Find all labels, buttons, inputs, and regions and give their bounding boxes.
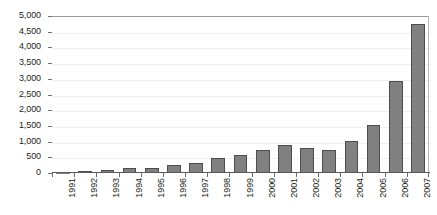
x-axis-tick-mark — [163, 173, 164, 177]
x-axis-tick-mark — [296, 173, 297, 177]
x-axis-tick-mark — [229, 173, 230, 177]
bar-series — [52, 17, 428, 173]
x-axis-tick-label: 2005 — [378, 178, 388, 212]
x-axis-tick-mark — [362, 173, 363, 177]
y-axis-tick-label: 500 — [0, 152, 41, 161]
bar[interactable] — [322, 150, 336, 173]
x-axis-tick-label: 1996 — [178, 178, 188, 212]
x-axis-tick-mark — [407, 173, 408, 177]
bar[interactable] — [300, 148, 314, 173]
x-axis-tick-label: 1992 — [89, 178, 99, 212]
x-axis-tick-label: 1997 — [200, 178, 210, 212]
x-axis-tick-mark — [185, 173, 186, 177]
y-axis-tick-label: 3,500 — [0, 58, 41, 67]
y-axis-tick-label: 1,500 — [0, 121, 41, 130]
y-axis-tick-label: 5,000 — [0, 11, 41, 20]
x-axis-tick-mark — [119, 173, 120, 177]
x-axis-tick-label: 2007 — [422, 178, 432, 212]
bar[interactable] — [389, 81, 403, 173]
x-axis-tick-label: 1998 — [222, 178, 232, 212]
bar-chart: 05001,0001,5002,0002,5003,0003,5004,0004… — [0, 0, 437, 215]
x-axis-tick-mark — [340, 173, 341, 177]
x-axis-tick-label: 2004 — [355, 178, 365, 212]
y-axis-tick-label: 4,500 — [0, 27, 41, 36]
y-axis: 05001,0001,5002,0002,5003,0003,5004,0004… — [0, 0, 47, 215]
x-axis-tick-mark — [74, 173, 75, 177]
y-axis-tick-label: 3,000 — [0, 74, 41, 83]
bar[interactable] — [211, 158, 225, 173]
x-axis-tick-label: 2003 — [333, 178, 343, 212]
x-axis-tick-label: 2002 — [311, 178, 321, 212]
plot-area — [52, 16, 429, 173]
x-axis-tick-mark — [252, 173, 253, 177]
bar[interactable] — [345, 141, 359, 173]
y-axis-tick-label: 0 — [0, 168, 41, 177]
bar[interactable] — [411, 24, 425, 173]
x-axis-tick-label: 1993 — [111, 178, 121, 212]
y-axis-tick-label: 2,500 — [0, 90, 41, 99]
x-axis: 1991199219931994199519961997199819992000… — [52, 178, 429, 215]
bar[interactable] — [256, 150, 270, 173]
x-axis-tick-label: 1995 — [156, 178, 166, 212]
x-axis-tick-mark — [274, 173, 275, 177]
bar[interactable] — [234, 155, 248, 173]
x-axis-tick-mark — [96, 173, 97, 177]
x-axis-tick-label: 2000 — [267, 178, 277, 212]
x-axis-tick-label: 1994 — [134, 178, 144, 212]
x-axis-tick-mark — [385, 173, 386, 177]
x-axis-tick-mark — [318, 173, 319, 177]
x-axis-tick-label: 2001 — [289, 178, 299, 212]
x-axis-tick-mark — [207, 173, 208, 177]
y-axis-tick-label: 1,000 — [0, 137, 41, 146]
bar[interactable] — [367, 125, 381, 173]
x-axis-tick-label: 1991 — [67, 178, 77, 212]
y-axis-tick-label: 4,000 — [0, 42, 41, 51]
x-axis-tick-label: 1999 — [245, 178, 255, 212]
x-axis-tick-mark — [428, 173, 429, 177]
x-axis-tick-label: 2006 — [400, 178, 410, 212]
x-axis-tick-mark — [141, 173, 142, 177]
x-axis-tick-mark — [52, 173, 53, 177]
bar[interactable] — [278, 145, 292, 173]
y-axis-tick-label: 2,000 — [0, 105, 41, 114]
